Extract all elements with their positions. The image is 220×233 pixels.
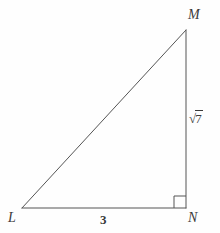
vertex-label-M: M bbox=[188, 8, 200, 22]
radical-expression: √7 bbox=[189, 112, 203, 125]
geometry-figure: M L N 3 √7 bbox=[0, 0, 220, 233]
triangle-drawing-canvas bbox=[0, 0, 220, 233]
hypotenuse-LM bbox=[22, 30, 186, 208]
side-length-label-MN: √7 bbox=[189, 112, 203, 125]
right-angle-square-icon bbox=[174, 196, 186, 208]
vertex-label-L: L bbox=[8, 211, 16, 225]
side-length-label-LN: 3 bbox=[100, 213, 107, 226]
radicand-value: 7 bbox=[195, 110, 203, 126]
vertex-label-N: N bbox=[188, 211, 197, 225]
